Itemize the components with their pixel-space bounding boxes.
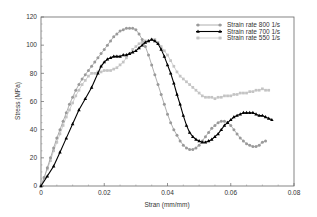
y-tick-label: 80 bbox=[30, 70, 38, 77]
x-tick-label: 0 bbox=[39, 189, 43, 196]
y-tick-label: 0 bbox=[33, 182, 37, 189]
y-tick-label: 20 bbox=[30, 154, 38, 161]
x-tick-label: 0.02 bbox=[98, 189, 111, 196]
legend-label: Strain rate 550 1/s bbox=[227, 34, 281, 41]
y-tick-label: 120 bbox=[26, 13, 37, 20]
y-axis-title: Stress (MPa) bbox=[14, 82, 22, 120]
y-tick-label: 100 bbox=[26, 41, 37, 48]
x-tick-label: 0.08 bbox=[288, 189, 301, 196]
y-tick-label: 40 bbox=[30, 126, 38, 133]
y-tick-label: 60 bbox=[30, 98, 38, 105]
stress-strain-chart: 00.020.040.060.08 020406080100120 Stran … bbox=[0, 0, 317, 217]
x-tick-label: 0.04 bbox=[161, 189, 174, 196]
x-axis-title: Stran (mm/mm) bbox=[144, 201, 189, 209]
x-tick-label: 0.06 bbox=[224, 189, 237, 196]
